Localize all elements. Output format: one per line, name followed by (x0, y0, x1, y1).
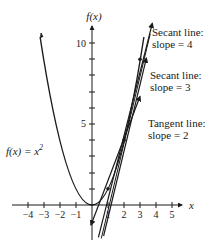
arrow-icon (41, 33, 44, 38)
secant-3-label-line1: Secant line: (150, 69, 202, 81)
y-axis-label: f(x) (86, 10, 102, 23)
secant-4-label-line2: slope = 4 (152, 38, 193, 50)
y-tick-label: 10 (76, 38, 86, 49)
x-tick-label: −3 (39, 209, 50, 220)
y-tick-label: 5 (81, 118, 86, 129)
diagram-canvas: −4 −3 −2 −1 1 2 3 4 5 x 5 10 f(x) f(x) = (0, 0, 216, 249)
point-2-4 (122, 138, 126, 142)
x-tick-label: 2 (122, 209, 127, 220)
x-tick-label: −2 (55, 209, 66, 220)
curve-label: f(x) = x2 (6, 143, 43, 158)
x-tick-label: 3 (138, 209, 143, 220)
x-tick-label: 5 (170, 209, 175, 220)
tangent-line-slope-2 (91, 97, 140, 226)
secant-line-slope-4-double (101, 34, 150, 238)
secant-3-label-line2: slope = 3 (150, 81, 191, 93)
tangent-label-line1: Tangent line: (148, 117, 206, 129)
point-1-1 (106, 187, 110, 191)
x-tick-label: −1 (71, 209, 82, 220)
x-tick-label: −4 (23, 209, 34, 220)
x-axis-label: x (188, 199, 194, 211)
secant-4-label-line1: Secant line: (152, 26, 204, 38)
point-3-9 (138, 57, 142, 61)
x-tick-label: 4 (154, 209, 159, 220)
tangent-label-line2: slope = 2 (148, 129, 188, 141)
